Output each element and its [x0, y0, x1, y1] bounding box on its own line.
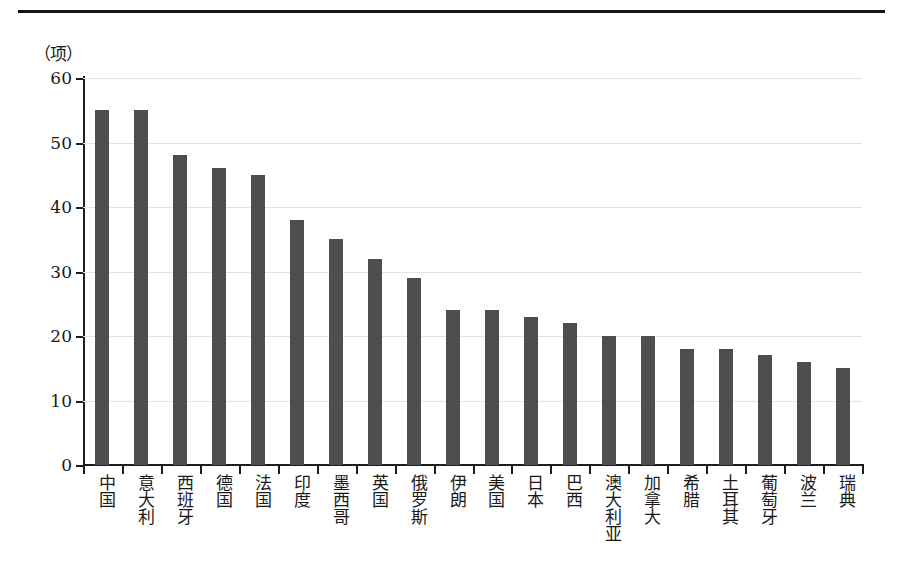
gridline	[83, 207, 862, 208]
x-axis-label: 西班牙	[167, 474, 193, 525]
plot-area: 0102030405060	[83, 78, 862, 465]
gridline	[83, 78, 862, 79]
x-axis-label: 巴西	[557, 474, 583, 508]
bar[interactable]	[563, 323, 577, 465]
bar[interactable]	[485, 310, 499, 465]
y-tick-mark	[76, 207, 83, 209]
x-tick-mark	[317, 465, 319, 474]
bar[interactable]	[602, 336, 616, 465]
y-axis-unit-caption: （项）	[34, 40, 82, 65]
x-tick-mark	[278, 465, 280, 474]
x-axis-label: 英国	[362, 474, 388, 508]
x-axis-label: 日本	[518, 474, 544, 508]
bar[interactable]	[212, 168, 226, 465]
x-axis-label: 加拿大	[635, 474, 661, 525]
bar[interactable]	[836, 368, 850, 465]
bar[interactable]	[290, 220, 304, 465]
x-axis-label: 墨西哥	[323, 474, 349, 525]
figure-canvas: （项） 0102030405060 中国意大利西班牙德国法国印度墨西哥英国俄罗斯…	[0, 0, 902, 585]
x-tick-mark	[745, 465, 747, 474]
x-axis-label: 美国	[479, 474, 505, 508]
y-tick-mark	[76, 336, 83, 338]
bar[interactable]	[173, 155, 187, 465]
x-axis-label: 中国	[89, 474, 115, 508]
x-tick-mark	[161, 465, 163, 474]
y-tick-mark	[76, 465, 83, 467]
x-axis-label: 印度	[284, 474, 310, 508]
y-tick-mark	[76, 78, 83, 80]
bar[interactable]	[641, 336, 655, 465]
x-axis-label: 澳大利亚	[596, 474, 622, 542]
x-tick-mark	[83, 465, 85, 474]
x-tick-mark	[628, 465, 630, 474]
x-axis-label: 意大利	[128, 474, 154, 525]
y-tick-label: 20	[50, 328, 72, 345]
y-tick-label: 10	[50, 392, 72, 409]
x-axis-label: 葡萄牙	[752, 474, 778, 525]
bar[interactable]	[95, 110, 109, 465]
bar[interactable]	[680, 349, 694, 465]
x-tick-mark	[511, 465, 513, 474]
x-tick-mark	[823, 465, 825, 474]
gridline	[83, 401, 862, 402]
x-axis-label: 土耳其	[713, 474, 739, 525]
x-axis-label: 希腊	[674, 474, 700, 508]
bar[interactable]	[134, 110, 148, 465]
x-tick-mark	[706, 465, 708, 474]
x-axis-label: 伊朗	[440, 474, 466, 508]
x-tick-mark	[784, 465, 786, 474]
x-tick-mark	[200, 465, 202, 474]
x-axis-label: 瑞典	[830, 474, 856, 508]
x-tick-mark	[239, 465, 241, 474]
bar[interactable]	[524, 317, 538, 465]
gridline	[83, 336, 862, 337]
gridline	[83, 143, 862, 144]
y-tick-label: 50	[50, 134, 72, 151]
x-tick-mark	[356, 465, 358, 474]
bar[interactable]	[446, 310, 460, 465]
header-rule	[18, 10, 885, 13]
x-axis-label: 法国	[245, 474, 271, 508]
bar[interactable]	[329, 239, 343, 465]
x-tick-mark	[550, 465, 552, 474]
x-axis-label: 德国	[206, 474, 232, 508]
x-tick-mark	[434, 465, 436, 474]
bar[interactable]	[368, 259, 382, 465]
bar[interactable]	[719, 349, 733, 465]
x-tick-mark	[122, 465, 124, 474]
y-tick-mark	[76, 401, 83, 403]
bar[interactable]	[251, 175, 265, 465]
bar[interactable]	[407, 278, 421, 465]
y-tick-mark	[76, 143, 83, 145]
x-tick-mark	[589, 465, 591, 474]
y-tick-label: 40	[50, 199, 72, 216]
x-axis-label: 俄罗斯	[401, 474, 427, 525]
gridline	[83, 272, 862, 273]
bar[interactable]	[758, 355, 772, 465]
x-tick-mark	[473, 465, 475, 474]
x-tick-mark	[862, 465, 864, 474]
y-tick-label: 30	[50, 263, 72, 280]
bar[interactable]	[797, 362, 811, 465]
y-tick-label: 60	[50, 70, 72, 87]
y-tick-label: 0	[61, 457, 72, 474]
x-tick-mark	[667, 465, 669, 474]
x-axis-label: 波兰	[791, 474, 817, 508]
x-tick-mark	[395, 465, 397, 474]
y-tick-mark	[76, 272, 83, 274]
